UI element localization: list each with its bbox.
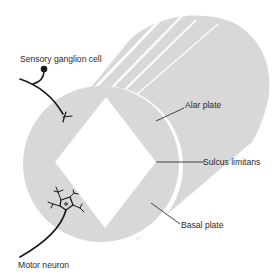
label-alar-plate: Alar plate [185, 100, 222, 110]
neural-tube-diagram: Sensory ganglion cell Alar plate Sulcus … [0, 0, 280, 279]
label-sulcus-limitans: Sulcus limitans [203, 157, 260, 167]
label-motor-neuron: Motor neuron [18, 260, 69, 270]
label-basal-plate: Basal plate [181, 220, 224, 230]
label-sensory-ganglion-cell: Sensory ganglion cell [20, 54, 102, 64]
